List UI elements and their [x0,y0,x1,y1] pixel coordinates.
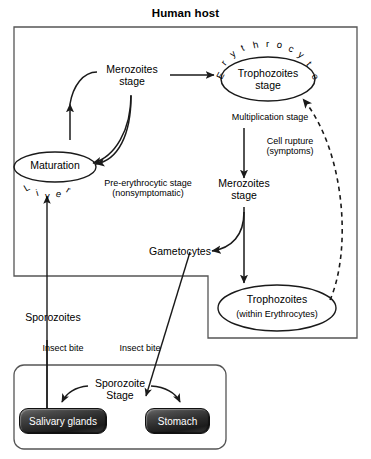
annotation-pre-erythrocytic-stage: Pre-erythrocytic stage (nonsymptomatic) [88,178,208,198]
curve-merozoites-down-to-maturation [93,95,131,163]
organ-salivary-glands-label: Salivary glands [29,416,97,427]
malaria-lifecycle-diagram: Human host Merozoites stage Trophozoites… [0,0,371,459]
node-trophozoites-stage: Trophozoites stage [228,68,308,92]
organ-stomach: Stomach [145,408,210,434]
arrow-gametocytes-to-stomach [146,252,190,396]
diagram-vector-layer [0,0,371,459]
organ-salivary-glands: Salivary glands [19,408,107,434]
node-trophozoites-within: Trophozoites [227,294,327,306]
curve-right-loop-to-maturation [96,96,131,164]
node-maturation: Maturation [15,160,95,172]
node-trophozoites-within-subtitle: (within Erythrocytes) [217,309,337,319]
arc-letter-v: v [45,190,50,201]
page-title: Human host [0,7,371,20]
node-sporozoites: Sporozoites [8,312,98,324]
arc-letter-r2: r [266,38,269,49]
annotation-multiplication-stage: Multiplication stage [210,112,330,122]
node-sporozoite-stage: Sporozoite Stage [80,378,160,402]
dashed-curve-cell-rupture-feedback [303,99,342,300]
curve-pre-erythrocytic-to-maturation [100,82,141,164]
node-gametocytes: Gametocytes [140,246,220,258]
annotation-insect-bite-left: Insect bite [23,343,103,353]
organ-stomach-label: Stomach [158,416,197,427]
node-merozoites-stage-blood: Merozoites stage [204,178,284,202]
node-merozoites-stage-liver: Merozoites stage [92,64,172,88]
trophozoites-within-ellipse [218,285,336,331]
annotation-insect-bite-right: Insect bite [100,343,180,353]
annotation-cell-rupture: Cell rupture (symptoms) [250,136,330,156]
